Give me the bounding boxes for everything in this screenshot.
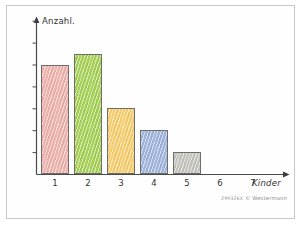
x-tick-label-6: 6	[209, 178, 231, 188]
x-tick-label-4: 4	[143, 178, 165, 188]
x-tick-label-2: 2	[77, 178, 99, 188]
bar-category-5[interactable]	[173, 152, 201, 174]
bar-category-1[interactable]	[41, 65, 69, 175]
credit-code: 29932EX	[221, 196, 243, 201]
figure-page: Anzahl. Kinder 1 2 3 4 5 6 7 29932EX © W…	[0, 0, 301, 225]
bar-chart: Anzahl. Kinder 1 2 3 4 5 6 7 29932EX © W…	[0, 0, 301, 225]
x-tick-label-3: 3	[110, 178, 132, 188]
bar-category-4[interactable]	[140, 130, 168, 174]
x-tick-label-5: 5	[176, 178, 198, 188]
x-tick-label-7: 7	[242, 178, 264, 188]
bars-layer	[0, 0, 301, 174]
bar-category-3[interactable]	[107, 108, 135, 174]
y-axis-title: Anzahl.	[42, 16, 75, 26]
credit-line: 29932EX © Westermann	[221, 195, 287, 201]
credit-owner: © Westermann	[245, 195, 287, 201]
bar-category-2[interactable]	[74, 54, 102, 175]
x-tick-label-1: 1	[44, 178, 66, 188]
